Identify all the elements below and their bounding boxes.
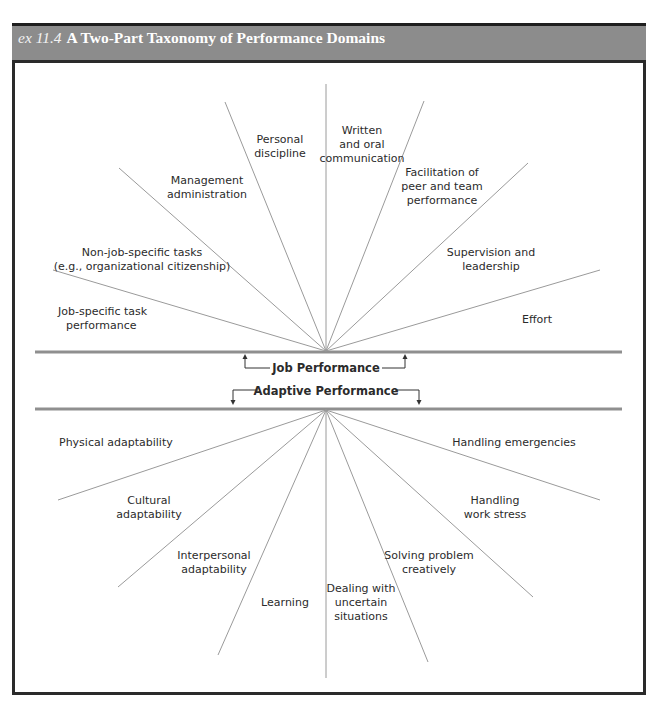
domain-non-job-specific-tasks: Non-job-specific tasks (e.g., organizati…: [54, 246, 231, 274]
domain-dealing-uncertain-situations: Dealing with uncertain situations: [327, 582, 396, 624]
domain-learning: Learning: [261, 596, 309, 610]
domain-cultural-adaptability: Cultural adaptability: [116, 494, 181, 522]
adaptive-performance-rays: [58, 410, 600, 678]
domain-written-oral-communication: Written and oral communication: [319, 124, 404, 166]
domain-job-specific-task-performance: Job-specific task performance: [58, 305, 147, 333]
domain-facilitation-peer-team: Facilitation of peer and team performanc…: [401, 166, 482, 208]
domain-handling-work-stress: Handling work stress: [464, 494, 527, 522]
domain-management-administration: Management administration: [167, 174, 247, 202]
domain-handling-emergencies: Handling emergencies: [452, 436, 575, 450]
domain-personal-discipline: Personal discipline: [254, 133, 306, 161]
arrow-down-right-head-icon: [417, 400, 422, 405]
arrow-down-right-icon: [395, 390, 419, 401]
arrow-up-right-icon: [382, 358, 405, 368]
arrow-up-left-head-icon: [243, 354, 248, 359]
job-performance-label: Job Performance: [272, 361, 379, 375]
domain-effort: Effort: [522, 313, 552, 327]
domain-physical-adaptability: Physical adaptability: [59, 436, 173, 450]
arrow-down-left-head-icon: [231, 400, 236, 405]
arrow-up-left-icon: [245, 358, 270, 368]
adaptive-performance-label: Adaptive Performance: [254, 384, 399, 398]
domain-supervision-leadership: Supervision and leadership: [447, 246, 535, 274]
domain-interpersonal-adaptability: Interpersonal adaptability: [177, 549, 250, 577]
domain-solving-problem-creatively: Solving problem creatively: [384, 549, 473, 577]
arrow-up-right-head-icon: [403, 354, 408, 359]
